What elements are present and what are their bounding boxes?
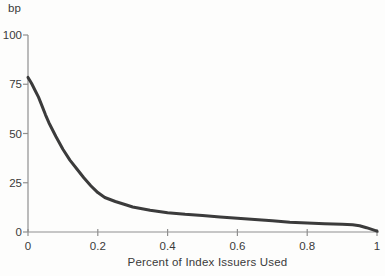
x-tick-label: 0.2	[90, 240, 106, 252]
y-tick-label: 50	[9, 128, 22, 140]
y-tick-label: 75	[9, 78, 22, 90]
y-tick-label: 100	[3, 29, 22, 41]
y-tick-label: 0	[16, 226, 22, 238]
x-tick-label: 0	[25, 240, 31, 252]
x-tick-label: 0.4	[160, 240, 177, 252]
y-axis-unit-label: bp	[8, 2, 21, 14]
y-tick-label: 25	[9, 177, 22, 189]
x-tick-label: 0.8	[299, 240, 315, 252]
chart-canvas: 025507510000.20.40.60.81	[0, 0, 385, 276]
marginal-tracking-error-chart: 025507510000.20.40.60.81 bp Percent of I…	[0, 0, 385, 276]
x-tick-label: 0.6	[229, 240, 245, 252]
x-tick-label: 1	[374, 240, 380, 252]
data-series-line	[28, 77, 377, 231]
x-axis-title: Percent of Index Issuers Used	[30, 256, 385, 268]
